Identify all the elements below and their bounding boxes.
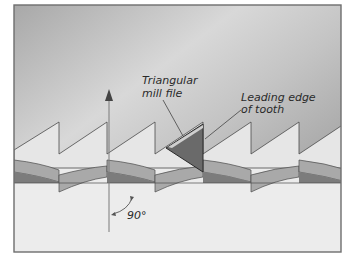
angle-label: 90° (127, 209, 147, 222)
file-label-line2: mill file (142, 87, 183, 100)
saw-filing-illustration: 90° Triangular mill file Leading edge of… (0, 0, 354, 263)
file-label-line1: Triangular (142, 74, 199, 87)
edge-label-line2: of tooth (241, 103, 284, 116)
